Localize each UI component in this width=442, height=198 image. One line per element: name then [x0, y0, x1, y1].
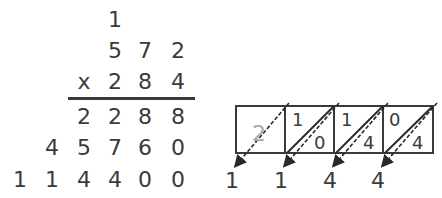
lattice-cell-faded-digit: 2	[252, 121, 266, 146]
lattice-output-digit: 1	[274, 168, 288, 193]
lattice-cell-top-digit: 0	[389, 109, 400, 130]
lattice-output-digit: 1	[225, 168, 239, 193]
lattice-cell-bottom-digit: 4	[363, 132, 374, 153]
lattice-cell-bottom-digit: 0	[314, 132, 325, 153]
lattice-cell-bottom-digit: 4	[412, 132, 423, 153]
lattice-diagram: 2 1 0 1 4 0 4 1 1 4 4	[0, 0, 442, 198]
lattice-cell-top-digit: 1	[292, 109, 303, 130]
lattice-output-digit: 4	[371, 168, 385, 193]
lattice-output-digit: 4	[323, 168, 337, 193]
lattice-cell-top-digit: 1	[341, 109, 352, 130]
